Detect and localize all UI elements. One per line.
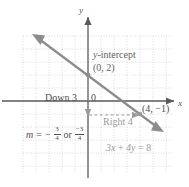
x-axis-label: x [178,99,182,108]
slope-variable: m [26,130,33,140]
slope-equals-sign: = [36,130,42,140]
equation-label: 3x + 4y = 8 [106,143,151,153]
slope-negative-sign: − [45,130,51,140]
origin-label: 0 [91,93,96,103]
slope-alt-denominator: 4 [77,135,83,142]
slope-fraction-alt: −3 4 [75,126,84,143]
y-intercept-coordinates: (0, 2) [93,63,115,73]
y-axis-label: y [79,6,83,15]
y-intercept-label: y-intercept [93,50,136,60]
slope-numerator: 3 [54,126,60,133]
down-3-label: Down 3 [45,93,77,103]
slope-or-word: or [64,130,72,140]
graph-figure: y-intercept (0, 2) Down 3 0 Right 4 (4, … [0,0,189,187]
slope-denominator: 4 [54,135,60,142]
right-4-label: Right 4 [103,117,133,127]
slope-alt-numerator: −3 [75,126,84,133]
point-coordinates-label: (4, −1) [142,104,169,114]
slope-fraction-primary: 3 4 [54,126,61,143]
slope-label: m = − 3 4 or −3 4 [26,127,84,144]
